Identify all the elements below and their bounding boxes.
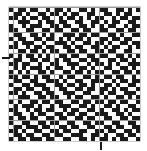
pattern-figure (0, 0, 147, 151)
column-marker-tick (100, 142, 102, 150)
binary-pattern-grid[interactable] (0, 0, 147, 151)
row-marker-tick (2, 57, 10, 59)
